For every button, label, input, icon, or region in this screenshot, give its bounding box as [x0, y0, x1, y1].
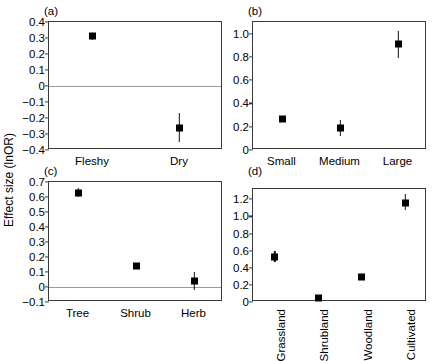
x-tick-label: Shrubland — [318, 309, 330, 361]
data-point: Shrubland — [318, 189, 319, 302]
data-point: Woodland — [361, 189, 362, 302]
x-tick-label: Woodland — [361, 309, 373, 361]
y-tick-mark — [249, 250, 253, 251]
data-marker — [315, 294, 322, 301]
y-tick-mark — [249, 267, 253, 268]
y-tick-mark — [249, 233, 253, 234]
y-tick-mark — [249, 199, 253, 200]
y-tick-mark — [249, 284, 253, 285]
y-tick-mark — [249, 301, 253, 302]
panel-tag: (d) — [248, 165, 262, 177]
data-marker — [271, 253, 278, 260]
data-marker — [402, 199, 409, 206]
plot-area: 1.21.00.80.60.40.20GrasslandShrublandWoo… — [252, 188, 426, 301]
x-tick-label: Cultivated — [405, 309, 417, 360]
x-tick-label: Grassland — [274, 309, 286, 361]
y-tick-mark — [249, 216, 253, 217]
data-point: Grassland — [274, 189, 275, 302]
data-point: Cultivated — [405, 189, 406, 302]
data-marker — [358, 274, 365, 281]
